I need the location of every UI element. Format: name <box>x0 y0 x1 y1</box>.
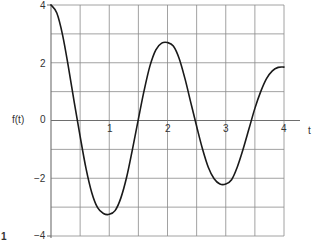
x-tick-2: 2 <box>165 124 171 134</box>
x-axis-label: t <box>308 126 311 136</box>
axes <box>47 4 300 238</box>
chart-canvas <box>0 0 320 242</box>
y-tick-0: 0 <box>40 115 46 125</box>
y-tick-4: 4 <box>40 1 46 11</box>
x-tick-1: 1 <box>107 124 113 134</box>
y-tick-minus-4: −4 <box>34 231 45 241</box>
y-tick-minus-2: −2 <box>34 174 45 184</box>
y-axis-label: f(t) <box>12 115 24 125</box>
y-tick-2: 2 <box>40 59 46 69</box>
x-tick-4: 4 <box>281 124 287 134</box>
x-tick-3: 3 <box>223 124 229 134</box>
corner-mark: 1 <box>1 232 7 242</box>
